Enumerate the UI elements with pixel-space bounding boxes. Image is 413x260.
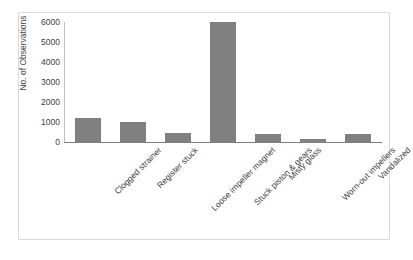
bar — [165, 133, 191, 142]
y-tick-label: 2000 — [41, 98, 60, 107]
x-axis-line — [64, 142, 382, 143]
y-tick-label: 4000 — [41, 58, 60, 67]
y-tick-label: 0 — [55, 138, 60, 147]
y-tick-label: 1000 — [41, 118, 60, 127]
bar — [255, 134, 281, 142]
x-tick-label: Clogged strainer — [112, 145, 163, 196]
bar-series — [65, 22, 381, 142]
bar — [300, 139, 326, 142]
bar — [75, 118, 101, 142]
x-tick-label: Loose impeller magnet — [209, 145, 277, 213]
y-tick-label: 5000 — [41, 38, 60, 47]
y-tick-label: 6000 — [41, 18, 60, 27]
x-axis-tick-labels: Clogged strainerRegister stuckLoose impe… — [65, 145, 385, 240]
bar — [210, 22, 236, 142]
bar — [120, 122, 146, 142]
x-tick-label-text: Loose impeller magnet — [209, 145, 277, 213]
y-axis-title: No. of Observations — [18, 3, 28, 103]
bar — [345, 134, 371, 142]
x-tick-label-text: Clogged strainer — [112, 145, 163, 196]
y-tick-label: 3000 — [41, 78, 60, 87]
